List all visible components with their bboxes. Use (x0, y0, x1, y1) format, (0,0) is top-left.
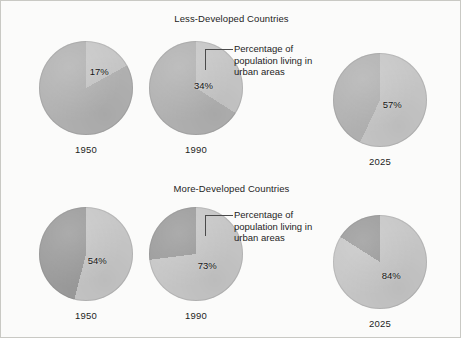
pie-group-more-1950: 54% 1950 (34, 207, 138, 321)
panel-title-less-developed: Less-Developed Countries (1, 13, 461, 24)
pie-chart-more-2025: 84% (333, 215, 427, 309)
year-label-less-2025: 2025 (328, 156, 432, 167)
pie-value-label-more-1990: 73% (198, 260, 217, 271)
pie-chart-less-1950: 17% (39, 41, 133, 135)
pie-group-less-1990: 34% 1990 (144, 41, 248, 155)
year-label-less-1950: 1950 (34, 144, 138, 155)
panel-less-developed: Less-Developed Countries 17% 1950 34% 19… (1, 1, 461, 171)
pie-texture (333, 53, 427, 147)
callout-line-3: urban areas (234, 232, 312, 244)
pie-texture (149, 207, 243, 301)
pie-group-more-1990: 73% 1990 (144, 207, 248, 321)
pie-texture (39, 207, 133, 301)
callout-line-3: urban areas (234, 66, 312, 78)
callout-line-2: population living in (234, 55, 312, 67)
pie-value-label-more-1950: 54% (88, 254, 107, 265)
pie-chart-more-1950: 54% (39, 207, 133, 301)
year-label-less-1990: 1990 (144, 144, 248, 155)
pie-value-label-less-2025: 57% (383, 98, 402, 109)
pie-texture (39, 41, 133, 135)
callout-line-1: Percentage of (234, 209, 312, 221)
pie-value-label-less-1990: 34% (194, 80, 213, 91)
callout-line-2: population living in (234, 221, 312, 233)
year-label-more-1990: 1990 (144, 310, 248, 321)
year-label-more-2025: 2025 (328, 318, 432, 329)
callout-line-1: Percentage of (234, 43, 312, 55)
pie-value-label-less-1950: 17% (90, 66, 109, 77)
pie-chart-less-2025: 57% (333, 53, 427, 147)
pie-group-less-1950: 17% 1950 (34, 41, 138, 155)
callout-more-developed: Percentage of population living in urban… (234, 209, 312, 244)
pie-texture (333, 215, 427, 309)
panel-more-developed: More-Developed Countries 54% 1950 73% 19… (1, 171, 461, 338)
pie-group-more-2025: 84% 2025 (328, 215, 432, 329)
pie-chart-more-1990: 73% (149, 207, 243, 301)
callout-less-developed: Percentage of population living in urban… (234, 43, 312, 78)
pie-chart-less-1990: 34% (149, 41, 243, 135)
year-label-more-1950: 1950 (34, 310, 138, 321)
panel-title-more-developed: More-Developed Countries (1, 183, 461, 194)
pie-group-less-2025: 57% 2025 (328, 53, 432, 167)
pie-chart-figure: Less-Developed Countries 17% 1950 34% 19… (0, 0, 461, 338)
pie-value-label-more-2025: 84% (382, 270, 401, 281)
